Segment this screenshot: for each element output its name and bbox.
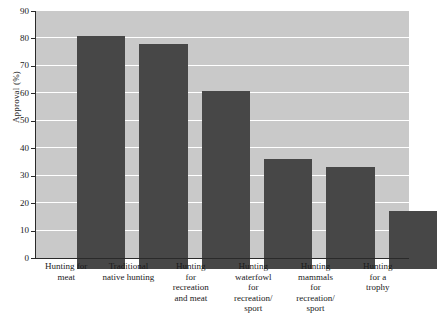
category-label-line: recreation/ xyxy=(284,293,346,304)
bar-slot xyxy=(139,22,188,269)
bar-slot xyxy=(326,22,375,269)
category-label-line: waterfowl xyxy=(222,272,284,283)
category-label-line: for a xyxy=(347,272,409,283)
category-label-line: sport xyxy=(222,303,284,314)
x-axis-category-label: Huntingmammalsforrecreation/sport xyxy=(284,261,346,314)
y-axis-tick xyxy=(31,258,35,259)
y-axis-tick-label: 60 xyxy=(3,89,29,98)
bar-slot xyxy=(202,22,251,269)
y-axis-tick-label: 20 xyxy=(3,199,29,208)
y-axis-tick-label: 30 xyxy=(3,171,29,180)
bar[interactable] xyxy=(202,91,251,269)
y-axis-tick xyxy=(31,11,35,12)
x-axis-category-label: Traditionalnative hunting xyxy=(97,261,159,282)
category-label-line: Hunting for xyxy=(35,261,97,272)
category-label-line: native hunting xyxy=(97,272,159,283)
category-label-line: Traditional xyxy=(97,261,159,272)
y-axis-tick-label: 70 xyxy=(3,61,29,70)
y-axis-tick xyxy=(31,148,35,149)
y-axis-tick xyxy=(31,66,35,67)
y-axis-tick-label: 10 xyxy=(3,226,29,235)
x-axis-category-label: Hunting formeat xyxy=(35,261,97,282)
y-axis-tick xyxy=(31,176,35,177)
x-axis-line xyxy=(35,258,409,259)
category-label-line: Hunting xyxy=(284,261,346,272)
category-label-line: recreation xyxy=(160,282,222,293)
y-axis-tick-label: 90 xyxy=(3,7,29,16)
bar[interactable] xyxy=(139,44,188,269)
bar[interactable] xyxy=(264,159,313,269)
bar[interactable] xyxy=(77,36,126,269)
y-axis-tick-label: 0 xyxy=(3,254,29,263)
bar-slot xyxy=(264,22,313,269)
category-label-line: Hunting xyxy=(347,261,409,272)
x-axis-category-label: Huntingforrecreationand meat xyxy=(160,261,222,303)
category-label-line: sport xyxy=(284,303,346,314)
x-axis-category-labels: Hunting formeatTraditionalnative hunting… xyxy=(35,261,409,303)
y-axis-tick xyxy=(31,38,35,39)
gridline xyxy=(35,10,409,11)
y-axis-tick-label: 40 xyxy=(3,144,29,153)
bar[interactable] xyxy=(326,167,375,269)
category-label-line: meat xyxy=(35,272,97,283)
bar-slot xyxy=(77,22,126,269)
x-axis-category-label: Huntingfor atrophy xyxy=(347,261,409,293)
bar-series xyxy=(70,22,441,269)
y-axis-tick xyxy=(31,121,35,122)
category-label-line: for xyxy=(160,272,222,283)
category-label-line: Hunting xyxy=(222,261,284,272)
category-label-line: recreation/ xyxy=(222,293,284,304)
category-label-line: for xyxy=(222,282,284,293)
category-label-line: for xyxy=(284,282,346,293)
category-label-line: mammals xyxy=(284,272,346,283)
y-axis-tick xyxy=(31,231,35,232)
y-axis-tick xyxy=(31,203,35,204)
plot-area xyxy=(35,11,409,258)
y-axis-tick-label: 80 xyxy=(3,34,29,43)
y-axis-line xyxy=(35,11,36,259)
x-axis-category-label: Huntingwaterfowlforrecreation/sport xyxy=(222,261,284,314)
category-label-line: trophy xyxy=(347,282,409,293)
bar-slot xyxy=(389,22,438,269)
category-label-line: Hunting xyxy=(160,261,222,272)
category-label-line: and meat xyxy=(160,293,222,304)
y-axis-tick-label: 50 xyxy=(3,116,29,125)
y-axis-tick xyxy=(31,93,35,94)
